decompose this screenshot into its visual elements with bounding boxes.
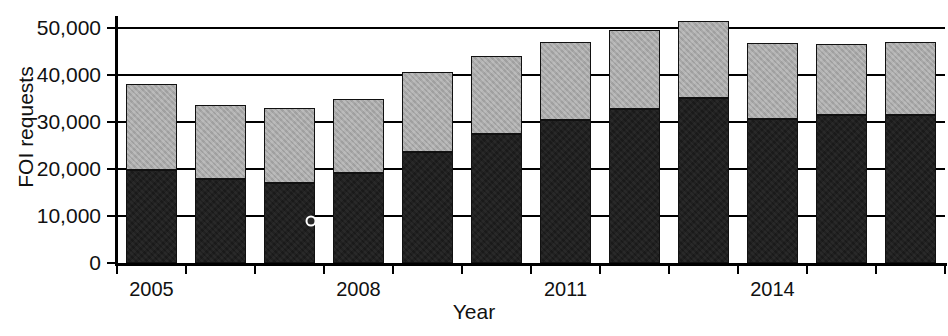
x-axis-tick: [944, 265, 946, 274]
bar: [402, 72, 454, 263]
bar: [195, 105, 247, 263]
y-axis-tick-label: 50,000: [0, 16, 101, 40]
x-axis-tick-label: 2014: [750, 278, 795, 301]
x-axis-tick: [254, 265, 256, 274]
y-axis-tick-label: 0: [0, 251, 101, 275]
bar: [126, 84, 178, 263]
bar-segment-upper: [540, 42, 592, 120]
plot-area: [117, 16, 945, 263]
x-axis-tick-label: 2011: [544, 278, 587, 301]
x-axis-tick: [392, 265, 394, 274]
bar: [678, 21, 730, 263]
bar: [885, 42, 937, 263]
bar-segment-lower: [333, 173, 385, 263]
data-marker-icon: [306, 215, 317, 226]
bar-segment-upper: [195, 105, 247, 179]
bar-segment-lower: [471, 134, 523, 263]
x-axis-tick: [737, 265, 739, 274]
bar-segment-upper: [126, 84, 178, 170]
x-axis-tick: [530, 265, 532, 274]
x-axis-title: Year: [0, 300, 948, 324]
bar-segment-lower: [747, 119, 799, 263]
bar-segment-upper: [264, 108, 316, 183]
y-axis-tick-label: 40,000: [0, 63, 101, 87]
y-axis-tick-label: 10,000: [0, 204, 101, 228]
bar: [264, 108, 316, 263]
bar-segment-upper: [885, 42, 937, 115]
bar-segment-upper: [402, 72, 454, 152]
x-axis-tick-label: 2008: [336, 278, 381, 301]
bar-segment-lower: [195, 179, 247, 263]
bar: [747, 43, 799, 263]
bar-segment-upper: [609, 30, 661, 109]
y-axis-tick-label: 30,000: [0, 110, 101, 134]
foi-requests-bar-chart: FOI requests 010,00020,00030,00040,00050…: [0, 0, 948, 336]
gridline: [117, 27, 945, 29]
y-axis-line: [115, 16, 118, 265]
bar-segment-upper: [471, 56, 523, 134]
bar: [609, 30, 661, 263]
x-axis-tick: [116, 265, 118, 274]
bar-segment-upper: [816, 44, 868, 115]
x-axis-tick: [806, 265, 808, 274]
bar-segment-upper: [747, 43, 799, 118]
x-axis-tick: [599, 265, 601, 274]
x-axis-tick-label: 2005: [129, 278, 174, 301]
x-axis-tick: [323, 265, 325, 274]
bar-segment-upper: [333, 99, 385, 173]
bar-segment-lower: [609, 109, 661, 263]
bar: [333, 99, 385, 263]
bar: [540, 42, 592, 263]
y-axis-tick-label: 20,000: [0, 157, 101, 181]
bar-segment-lower: [126, 170, 178, 263]
x-axis-tick: [668, 265, 670, 274]
x-axis-tick: [461, 265, 463, 274]
bar: [471, 56, 523, 263]
bar-segment-lower: [540, 120, 592, 263]
x-axis-tick: [185, 265, 187, 274]
bar-segment-lower: [816, 115, 868, 263]
bar-segment-lower: [885, 115, 937, 263]
bar-segment-lower: [402, 152, 454, 263]
bar-segment-lower: [678, 98, 730, 263]
x-axis-tick: [875, 265, 877, 274]
bar: [816, 44, 868, 263]
bar-segment-upper: [678, 21, 730, 98]
